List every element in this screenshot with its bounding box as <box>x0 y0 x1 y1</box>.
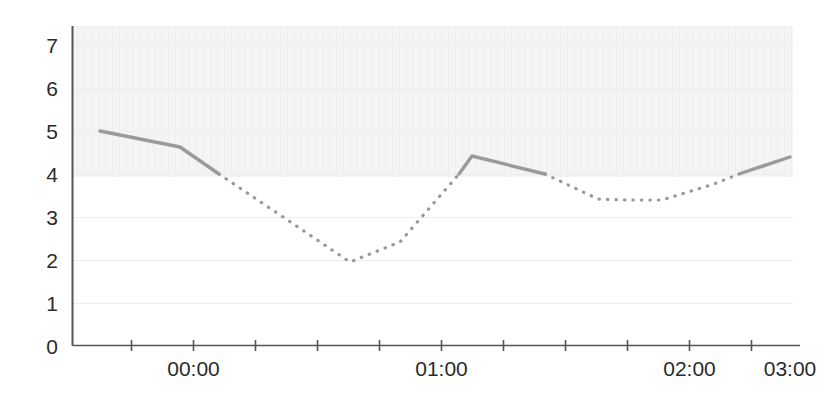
y-tick-label-6: 6 <box>46 77 58 100</box>
y-tick-label-4: 4 <box>46 163 58 186</box>
series-segment-dotted-2 <box>545 174 739 200</box>
y-tick-label-3: 3 <box>46 206 58 229</box>
y-tick-label-0: 0 <box>46 335 58 358</box>
x-tick-label-0000: 00:00 <box>167 357 220 380</box>
y-tick-label-2: 2 <box>46 249 58 272</box>
y-tick-label-1: 1 <box>46 292 58 315</box>
y-tick-label-5: 5 <box>46 120 58 143</box>
x-tick-label-0200: 02:00 <box>663 357 716 380</box>
y-axis-tick-labels: 7 6 5 4 3 2 1 0 <box>46 34 58 358</box>
x-axis-tick-labels: 00:00 01:00 02:00 03:00 <box>167 357 816 380</box>
x-tick-label-0300: 03:00 <box>764 357 817 380</box>
y-tick-label-7: 7 <box>46 34 58 57</box>
line-chart: 7 6 5 4 3 2 1 0 00:00 01:00 02:00 03:00 <box>0 0 831 406</box>
x-tick-label-0100: 01:00 <box>415 357 468 380</box>
threshold-band <box>73 26 793 177</box>
chart-container: 7 6 5 4 3 2 1 0 00:00 01:00 02:00 03:00 <box>0 0 831 406</box>
